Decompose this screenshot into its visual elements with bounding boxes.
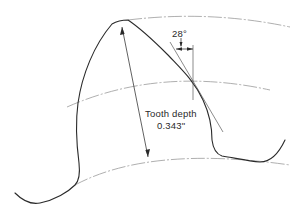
angle-leader-arrowhead <box>180 42 183 47</box>
angle-arrowhead-right <box>187 47 193 50</box>
tooth-depth-dimension-line <box>122 27 148 157</box>
pitch-circle-arc <box>67 81 270 107</box>
tooth-depth-value: 0.343" <box>157 120 185 131</box>
angle-label: 28° <box>172 28 187 39</box>
tooth-depth-arrowhead-bottom <box>145 149 150 157</box>
tooth-depth-title: Tooth depth <box>145 108 197 119</box>
addendum-circle-arc <box>128 16 290 27</box>
angle-arrowhead-left <box>176 47 182 50</box>
tooth-depth-arrowhead-top <box>120 27 125 35</box>
